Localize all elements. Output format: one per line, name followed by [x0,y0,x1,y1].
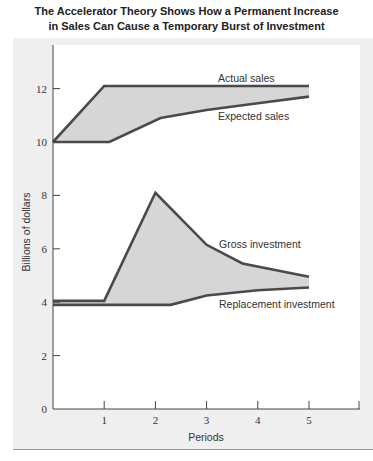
x-axis-label: Periods [188,431,224,443]
x-tick-label: 5 [306,414,312,426]
y-tick-label: 6 [42,243,48,255]
y-tick-label: 2 [42,350,48,362]
x-tick-label: 1 [101,414,107,426]
y-tick-label: 12 [36,83,47,95]
label-actual-sales: Actual sales [218,72,275,84]
x-tick-label: 4 [255,414,261,426]
x-tick-label: 3 [204,414,210,426]
y-axis-label: Billions of dollars [20,193,32,272]
y-tick-label: 10 [36,136,48,148]
label-expected-sales: Expected sales [218,110,289,122]
label-gross-investment: Gross investment [219,238,301,250]
x-tick-label: 2 [153,414,159,426]
chart-svg: 02468101212345 Actual sales Expected sal… [0,0,373,461]
y-tick-label: 8 [42,189,48,201]
label-replacement-investment: Replacement investment [219,298,335,310]
y-tick-label: 4 [42,296,48,308]
y-tick-label: 0 [42,403,48,415]
